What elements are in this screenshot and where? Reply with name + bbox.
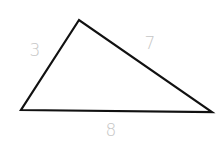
triangle-diagram: 3 7 8 [0, 0, 224, 144]
side-label-left: 3 [30, 40, 41, 60]
side-label-bottom: 8 [106, 120, 117, 140]
triangle-shape [21, 20, 212, 112]
side-label-right: 7 [145, 33, 156, 53]
